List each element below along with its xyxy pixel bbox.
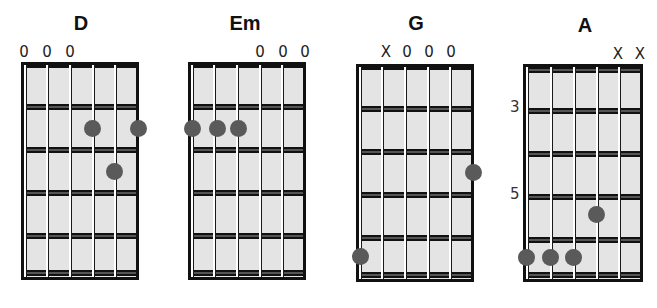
open-string-marker: 0 [17, 44, 31, 60]
finger-dot [588, 206, 605, 223]
nut [188, 62, 306, 68]
string [281, 65, 284, 277]
fret [359, 235, 471, 241]
fret-number-label: 5 [510, 185, 520, 203]
finger-dot [84, 120, 101, 137]
fret [24, 147, 136, 153]
fret [526, 151, 640, 157]
nut [21, 62, 139, 68]
chord-name: D [66, 12, 96, 35]
muted-string-marker: X [633, 46, 647, 62]
muted-string-marker: X [379, 44, 393, 60]
string [46, 65, 49, 277]
open-string-marker: 0 [400, 44, 414, 60]
nut [356, 64, 474, 70]
finger-dot [542, 249, 559, 266]
string [191, 65, 194, 277]
string [449, 67, 452, 279]
open-string-marker: 0 [422, 44, 436, 60]
finger-dot [184, 120, 201, 137]
fretboard [523, 64, 643, 282]
fret [359, 272, 471, 278]
fret [191, 104, 303, 110]
fretboard [356, 64, 474, 282]
string [526, 67, 529, 279]
finger-dot [352, 248, 369, 265]
finger-dot [565, 249, 582, 266]
fret [24, 270, 136, 276]
finger-dot [209, 120, 226, 137]
open-string-marker: 0 [298, 44, 312, 60]
fret [526, 67, 640, 73]
open-string-marker: 0 [63, 44, 77, 60]
string [573, 67, 576, 279]
fret [191, 233, 303, 239]
fret [24, 233, 136, 239]
fret [24, 104, 136, 110]
chord-name: A [570, 14, 600, 37]
string [404, 67, 407, 279]
chord-name: Em [225, 12, 265, 35]
fret [359, 106, 471, 112]
open-string-marker: 0 [444, 44, 458, 60]
fret [526, 237, 640, 243]
fretboard [188, 62, 306, 280]
fret [526, 272, 640, 278]
finger-dot [465, 164, 482, 181]
open-string-marker: 0 [253, 44, 267, 60]
fret [359, 149, 471, 155]
string [596, 67, 599, 279]
string [259, 65, 262, 277]
string [427, 67, 430, 279]
fret [526, 194, 640, 200]
finger-dot [130, 120, 147, 137]
fret [526, 108, 640, 114]
string [618, 67, 621, 279]
fret [191, 147, 303, 153]
finger-dot [518, 249, 535, 266]
fret [191, 190, 303, 196]
fret-number-label: 3 [510, 98, 520, 116]
string [92, 65, 95, 277]
string [213, 65, 216, 277]
chord-name: G [401, 12, 431, 35]
fret [24, 190, 136, 196]
string [69, 65, 72, 277]
string [381, 67, 384, 279]
open-string-marker: 0 [40, 44, 54, 60]
string [236, 65, 239, 277]
string [24, 65, 27, 277]
fret [359, 192, 471, 198]
finger-dot [106, 163, 123, 180]
string [550, 67, 553, 279]
fret [191, 270, 303, 276]
finger-dot [230, 120, 247, 137]
muted-string-marker: X [611, 46, 625, 62]
open-string-marker: 0 [276, 44, 290, 60]
